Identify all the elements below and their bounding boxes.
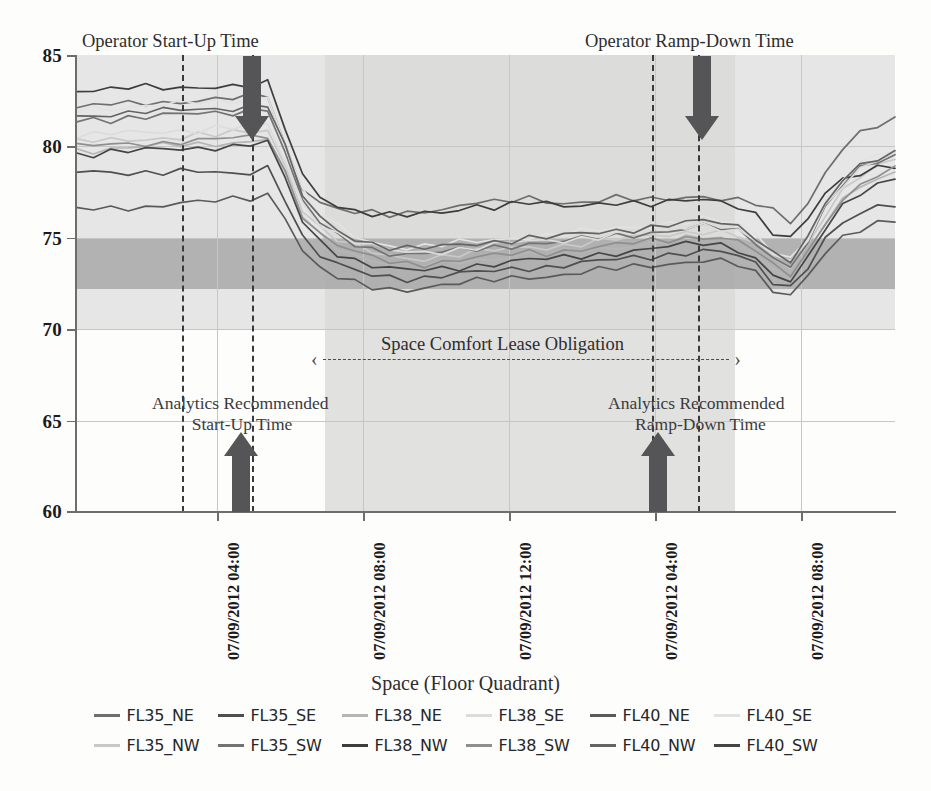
legend-swatch-icon xyxy=(218,744,244,747)
legend-item[interactable]: FL40_NE xyxy=(590,706,714,725)
ytick-label-65: 65 xyxy=(28,412,62,431)
legend-item[interactable]: FL35_SW xyxy=(218,736,342,755)
legend-item[interactable]: FL35_NE xyxy=(94,706,218,725)
legend-label: FL40_SE xyxy=(747,706,812,725)
legend-label: FL40_SW xyxy=(747,736,818,755)
series-line xyxy=(76,135,895,277)
legend-item[interactable]: FL38_NW xyxy=(342,736,466,755)
operator-rampdown-label: Operator Ramp-Down Time xyxy=(585,30,794,53)
plot-area xyxy=(76,55,895,512)
analytics-startup-label-line1: Analytics Recommended xyxy=(152,393,328,414)
legend-swatch-icon xyxy=(466,744,492,747)
legend-swatch-icon xyxy=(342,744,368,747)
legend-row-2: FL35_NWFL35_SWFL38_NWFL38_SWFL40_NWFL40_… xyxy=(0,736,931,755)
ytick-mark-85 xyxy=(67,55,76,57)
ytick-mark-60 xyxy=(67,511,76,513)
ytick-label-80: 80 xyxy=(28,137,62,156)
xtick-label-5: 07/09/2012 08:00 xyxy=(808,542,828,660)
legend-label: FL35_NE xyxy=(127,706,194,725)
y-axis-line xyxy=(75,55,77,513)
xtick-mark-1 xyxy=(217,512,219,521)
xtick-label-3: 07/09/2012 12:00 xyxy=(516,542,536,660)
legend-label: FL40_NW xyxy=(623,736,696,755)
analytics-rampdown-label-line1: Analytics Recommended xyxy=(608,393,784,414)
lease-arrow-right-head: › xyxy=(734,352,741,366)
x-axis-line xyxy=(76,511,896,513)
legend-item[interactable]: FL40_NW xyxy=(590,736,714,755)
legend-item[interactable]: FL40_SE xyxy=(714,706,838,725)
legend-swatch-icon xyxy=(590,714,616,717)
series-line xyxy=(76,93,895,224)
legend-swatch-icon xyxy=(94,714,120,717)
legend-label: FL38_SW xyxy=(499,736,570,755)
legend-swatch-icon xyxy=(590,744,616,747)
legend-item[interactable]: FL38_SE xyxy=(466,706,590,725)
ytick-label-75: 75 xyxy=(28,229,62,248)
operator-startup-label: Operator Start-Up Time xyxy=(82,30,259,53)
lease-obligation-arrow: ‹ › xyxy=(311,352,741,368)
legend-swatch-icon xyxy=(94,744,120,747)
series-line xyxy=(76,123,895,261)
series-line xyxy=(76,140,895,282)
lease-arrow-left-head: ‹ xyxy=(311,352,318,366)
series-line xyxy=(76,105,895,263)
ytick-label-85: 85 xyxy=(28,46,62,65)
xtick-label-1: 07/09/2012 04:00 xyxy=(224,542,244,660)
xtick-label-4: 07/09/2012 04:00 xyxy=(662,542,682,660)
ytick-label-60: 60 xyxy=(28,502,62,521)
legend-swatch-icon xyxy=(466,714,492,717)
ytick-mark-75 xyxy=(67,238,76,240)
series-lines xyxy=(76,55,895,512)
xtick-label-2: 07/09/2012 08:00 xyxy=(370,542,390,660)
legend-label: FL35_SW xyxy=(251,736,322,755)
legend-swatch-icon xyxy=(714,714,740,717)
xtick-mark-3 xyxy=(509,512,511,521)
ytick-mark-70 xyxy=(67,329,76,331)
legend-label: FL40_NE xyxy=(623,706,690,725)
legend-item[interactable]: FL38_NE xyxy=(342,706,466,725)
vline-analytics-startup xyxy=(182,55,184,512)
xtick-mark-4 xyxy=(655,512,657,521)
legend-swatch-icon xyxy=(714,744,740,747)
legend-item[interactable]: FL40_SW xyxy=(714,736,838,755)
legend-label: FL38_NE xyxy=(375,706,442,725)
legend-label: FL38_SE xyxy=(499,706,564,725)
x-axis-title: Space (Floor Quadrant) xyxy=(0,672,931,695)
legend: FL35_NEFL35_SEFL38_NEFL38_SEFL40_NEFL40_… xyxy=(0,706,931,755)
legend-item[interactable]: FL35_NW xyxy=(94,736,218,755)
ytick-label-70: 70 xyxy=(28,320,62,339)
legend-swatch-icon xyxy=(218,714,244,717)
chart-figure: 85 80 75 70 65 60 Operator Start-Up Time… xyxy=(0,0,931,791)
legend-item[interactable]: FL38_SW xyxy=(466,736,590,755)
xtick-mark-5 xyxy=(801,512,803,521)
legend-label: FL35_NW xyxy=(127,736,200,755)
analytics-rampdown-label-line2: Ramp-Down Time xyxy=(608,414,793,435)
legend-row-1: FL35_NEFL35_SEFL38_NEFL38_SEFL40_NEFL40_… xyxy=(0,706,931,725)
ytick-mark-80 xyxy=(67,146,76,148)
xtick-mark-2 xyxy=(363,512,365,521)
legend-label: FL38_NW xyxy=(375,736,448,755)
legend-swatch-icon xyxy=(342,714,368,717)
legend-label: FL35_SE xyxy=(251,706,316,725)
legend-item[interactable]: FL35_SE xyxy=(218,706,342,725)
ytick-mark-65 xyxy=(67,421,76,423)
